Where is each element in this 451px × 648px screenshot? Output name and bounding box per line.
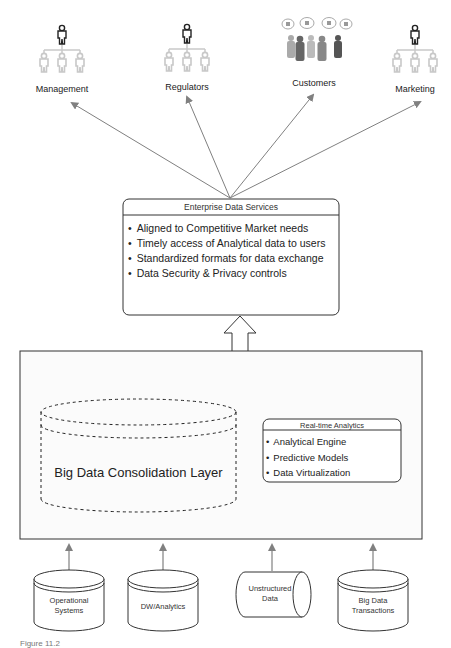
- source-label-line: Data: [238, 594, 302, 604]
- realtime-analytics-list: Analytical Engine Predictive Models Data…: [266, 434, 350, 481]
- enterprise-service-item: Data Security & Privacy controls: [128, 266, 325, 281]
- source-label-line: DW/Analytics: [128, 602, 198, 612]
- marketing-hierarchy-icon: [393, 25, 437, 72]
- block-up-arrow: [224, 316, 256, 351]
- realtime-analytics-title: Real-time Analytics: [263, 421, 401, 430]
- consumer-label-regulators: Regulators: [147, 82, 227, 92]
- customers-group-icon: [282, 18, 352, 62]
- source-label-line: Unstructured: [238, 584, 302, 594]
- source-label-line: Big Data: [338, 596, 408, 606]
- source-label-big-data: Big Data Transactions: [338, 596, 408, 616]
- source-label-line: Systems: [34, 606, 104, 616]
- source-label-line: Operational: [34, 596, 104, 606]
- enterprise-services-list: Aligned to Competitive Market needs Time…: [128, 221, 325, 281]
- source-dw-analytics-cylinder: [128, 570, 198, 631]
- realtime-analytics-item: Data Virtualization: [266, 465, 350, 481]
- consolidation-layer-label: Big Data Consolidation Layer: [40, 465, 237, 480]
- management-hierarchy-icon: [40, 25, 84, 72]
- source-label-operational: Operational Systems: [34, 596, 104, 616]
- enterprise-service-item: Aligned to Competitive Market needs: [128, 221, 325, 236]
- realtime-analytics-item: Analytical Engine: [266, 434, 350, 450]
- realtime-analytics-item: Predictive Models: [266, 450, 350, 466]
- source-arrows: [69, 545, 373, 571]
- source-label-unstructured: Unstructured Data: [238, 584, 302, 604]
- enterprise-service-item: Timely access of Analytical data to user…: [128, 236, 325, 251]
- enterprise-services-title: Enterprise Data Services: [123, 202, 339, 212]
- regulators-hierarchy-icon: [165, 24, 209, 71]
- enterprise-service-item: Standardized formats for data exchange: [128, 251, 325, 266]
- source-label-line: Transactions: [338, 606, 408, 616]
- consumer-label-customers: Customers: [274, 78, 354, 88]
- source-label-dw-analytics: DW/Analytics: [128, 602, 198, 612]
- consumer-label-management: Management: [22, 84, 102, 94]
- consumer-arrows: [72, 95, 420, 198]
- figure-caption: Figure 11.2: [20, 639, 60, 648]
- consumer-label-marketing: Marketing: [375, 84, 451, 94]
